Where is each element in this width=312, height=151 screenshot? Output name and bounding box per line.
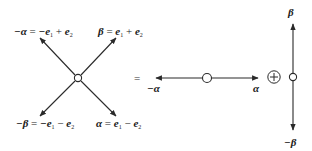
x-root-diagram bbox=[40, 38, 116, 116]
label-beta-lhs: β bbox=[98, 25, 104, 37]
label-middle-neg-alpha: −α bbox=[147, 83, 160, 94]
label-middle-alpha: α bbox=[253, 83, 259, 94]
label-op: − bbox=[124, 117, 130, 129]
label-beta: β = e1 + e2 bbox=[98, 26, 143, 38]
label-middle-alpha-text: α bbox=[253, 82, 259, 94]
label-right-beta: β bbox=[288, 7, 294, 18]
label-neg-alpha: −α = −e1 + e2 bbox=[14, 26, 73, 38]
label-op: + bbox=[56, 25, 62, 37]
label-right-neg-beta: −β bbox=[284, 137, 296, 148]
arrow-neg-alpha bbox=[40, 38, 75, 75]
label-sub: 1 bbox=[50, 32, 53, 38]
label-sub: 1 bbox=[119, 124, 122, 130]
arrow-beta bbox=[81, 38, 116, 75]
label-right-neg-beta-text: −β bbox=[284, 136, 296, 148]
label-middle-neg-alpha-text: −α bbox=[147, 82, 160, 94]
beta-line-node bbox=[289, 73, 296, 80]
label-right-beta-text: β bbox=[288, 6, 294, 18]
label-op: − bbox=[57, 117, 63, 129]
label-neg-beta-lhs: −β bbox=[16, 117, 28, 129]
label-sub: 2 bbox=[138, 124, 141, 130]
equals-sign: = bbox=[134, 73, 140, 84]
label-alpha: α = e1 − e2 bbox=[96, 118, 141, 130]
label-neg-alpha-e1: −e bbox=[38, 25, 50, 37]
beta-line-diagram bbox=[289, 24, 296, 130]
alpha-line-node bbox=[203, 74, 212, 83]
arrow-neg-beta bbox=[40, 81, 75, 116]
label-neg-beta: −β = −e1 − e2 bbox=[16, 118, 74, 130]
label-sub: 2 bbox=[70, 32, 73, 38]
label-sub: 2 bbox=[140, 32, 143, 38]
label-sub: 2 bbox=[71, 124, 74, 130]
arrow-alpha bbox=[81, 81, 116, 116]
alpha-line-diagram bbox=[156, 74, 258, 83]
center-node bbox=[74, 74, 81, 81]
direct-sum-icon bbox=[268, 71, 280, 83]
label-op: + bbox=[126, 25, 132, 37]
label-sub: 1 bbox=[120, 32, 123, 38]
label-alpha-lhs: α bbox=[96, 117, 102, 129]
label-sub: 1 bbox=[52, 124, 55, 130]
label-neg-alpha-lhs: −α bbox=[14, 25, 27, 37]
label-neg-beta-e1: −e bbox=[40, 117, 52, 129]
